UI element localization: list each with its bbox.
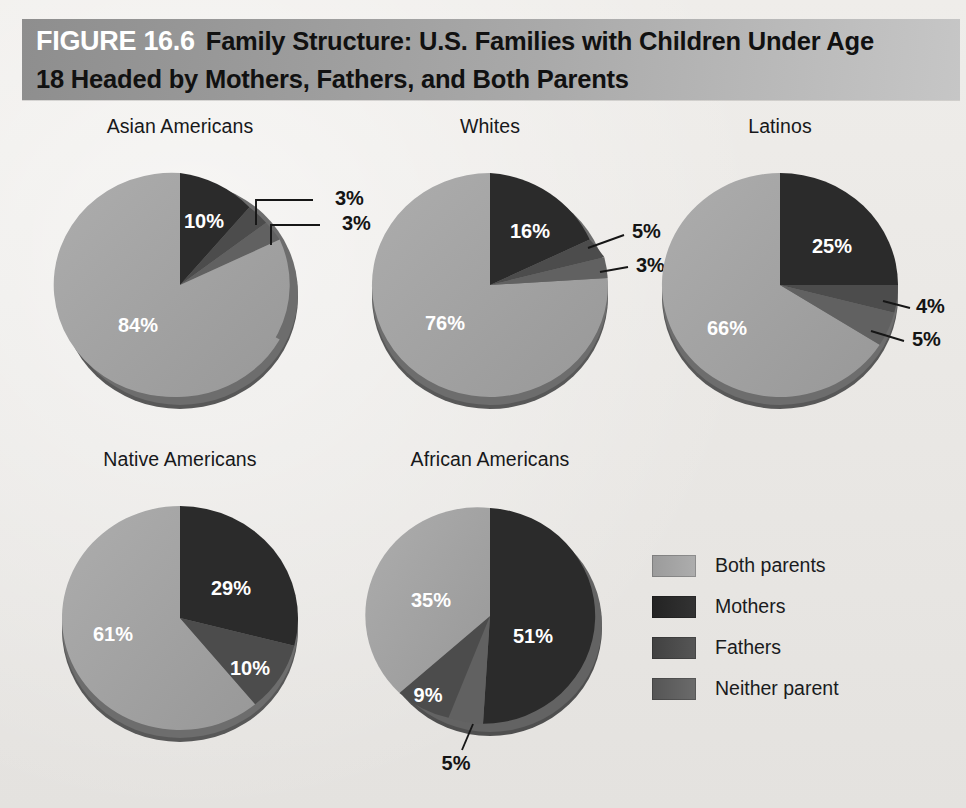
pie-canvas-native-americans: 29% 61% 10% [30,478,330,758]
figure-title-line-2: 18 Headed by Mothers, Fathers, and Both … [36,60,954,98]
pie-chart-african-americans: African Americans 51% 35% [340,448,640,768]
slice-label-mothers: 10% [184,210,224,232]
slice-label-fathers: 9% [414,684,443,706]
legend-label-both-parents: Both parents [715,554,826,577]
slice-label-neither-parent: 5% [442,752,471,774]
pie-canvas-latinos: 25% 66% 4% 5% [630,145,930,415]
slice-label-fathers: 4% [916,295,945,317]
pie-chart-native-americans: Native Americans 29% 61% 10% [30,448,330,758]
pie-chart-asian-americans: Asian Americans [30,115,330,415]
chart-legend: Both parents Mothers Fathers Neither par… [652,545,952,709]
pie-canvas-asian-americans: 10% 84% 3% 3% [30,145,330,415]
slice-label-both-parents: 76% [425,312,465,334]
slice-label-both-parents: 66% [707,317,747,339]
slice-label-mothers: 16% [510,220,550,242]
legend-label-neither-parent: Neither parent [715,677,839,700]
legend-swatch-fathers [652,637,696,659]
legend-label-mothers: Mothers [715,595,785,618]
legend-swatch-mothers [652,596,696,618]
pie-title-native-americans: Native Americans [30,448,330,471]
figure-banner-text: FIGURE 16.6Family Structure: U.S. Famili… [36,22,954,98]
slice-label-fathers: 10% [230,657,270,679]
figure-title-line-1: FIGURE 16.6Family Structure: U.S. Famili… [36,22,954,60]
slice-label-mothers: 25% [812,235,852,257]
figure-title-text-1: Family Structure: U.S. Families with Chi… [206,27,874,55]
slice-label-both-parents: 35% [411,589,451,611]
figure-page: FIGURE 16.6Family Structure: U.S. Famili… [0,0,966,808]
figure-banner: FIGURE 16.6Family Structure: U.S. Famili… [22,19,960,100]
legend-item-fathers: Fathers [652,627,952,668]
slice-label-neither-parent: 5% [912,328,941,350]
legend-label-fathers: Fathers [715,636,781,659]
legend-swatch-neither-parent [652,678,696,700]
slice-label-both-parents: 61% [93,623,133,645]
pie-canvas-african-americans: 51% 35% 9% 5% [340,478,640,768]
pie-title-latinos: Latinos [630,115,930,138]
pie-chart-whites: Whites 16% 76% [340,115,640,415]
slice-label-mothers: 51% [513,625,553,647]
pie-title-african-americans: African Americans [340,448,640,471]
pie-canvas-whites: 16% 76% 5% 3% [340,145,640,415]
figure-number-label: FIGURE 16.6 [36,26,195,56]
legend-item-neither-parent: Neither parent [652,668,952,709]
pie-chart-latinos: Latinos 25% 66% [630,115,930,415]
legend-item-both-parents: Both parents [652,545,952,586]
legend-item-mothers: Mothers [652,586,952,627]
legend-swatch-both-parents [652,555,696,577]
slice-label-mothers: 29% [211,577,251,599]
pie-title-asian-americans: Asian Americans [30,115,330,138]
pie-title-whites: Whites [340,115,640,138]
slice-label-both-parents: 84% [118,314,158,336]
